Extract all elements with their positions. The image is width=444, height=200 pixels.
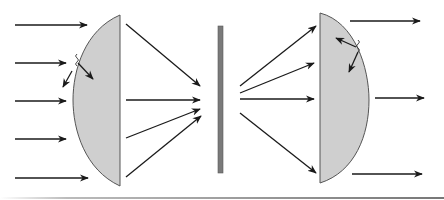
reflected-arrow (63, 71, 72, 87)
bottom-rule (0, 197, 444, 199)
diagram-canvas (0, 0, 444, 200)
converging-ray-4 (126, 116, 201, 177)
diverging-rays (240, 26, 316, 173)
diverging-ray-4 (240, 113, 316, 173)
lens-left (73, 15, 120, 186)
optics-diagram: Parallel rays pass through a plano-conve… (0, 0, 444, 200)
converging-rays (126, 24, 201, 177)
converging-ray-1 (126, 24, 200, 86)
slit-screen (218, 26, 223, 173)
lens-right (320, 13, 369, 183)
converging-ray-3 (126, 109, 200, 138)
